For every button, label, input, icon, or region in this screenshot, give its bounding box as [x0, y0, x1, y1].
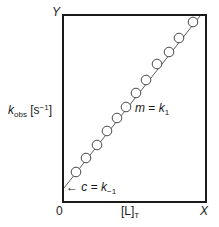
data-point-marker — [112, 113, 122, 123]
data-point-marker — [152, 59, 162, 69]
data-markers — [71, 17, 198, 177]
data-point-marker — [102, 126, 112, 136]
data-point-marker — [92, 140, 102, 150]
x-axis-end-label: X — [200, 205, 208, 217]
origin-label: 0 — [56, 205, 63, 217]
data-point-marker — [141, 75, 151, 85]
y-axis-label: kobs [s−1] — [8, 104, 52, 116]
intercept-annotation: ← c = k−1 — [66, 181, 116, 193]
data-point-marker — [164, 47, 174, 57]
data-point-marker — [81, 153, 91, 163]
x-axis-label: [L]T — [121, 205, 139, 217]
data-point-marker — [131, 88, 141, 98]
slope-annotation: m = k1 — [135, 102, 169, 114]
arrow-left-icon: ← — [66, 180, 78, 194]
data-point-marker — [121, 102, 131, 112]
data-point-marker — [71, 167, 81, 177]
data-point-marker — [188, 17, 198, 27]
data-point-marker — [174, 33, 184, 43]
y-axis-end-label: Y — [52, 6, 60, 18]
